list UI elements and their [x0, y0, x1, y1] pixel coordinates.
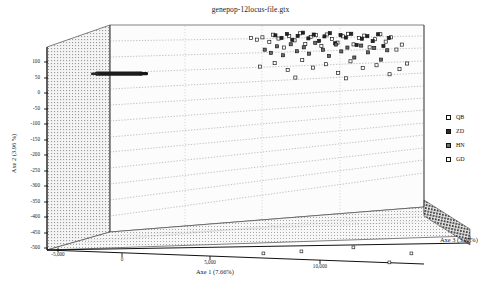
- legend-label: QB: [456, 114, 464, 120]
- scatter-point: [360, 44, 363, 47]
- scatter-point: [357, 37, 360, 40]
- scatter-point-floor: [410, 252, 413, 255]
- scatter-point: [352, 43, 355, 46]
- z-axis-title: Axe 3 (3.07%): [440, 236, 478, 243]
- scatter-point: [384, 40, 387, 43]
- scatter-point: [301, 31, 304, 34]
- scatter-point: [302, 46, 305, 49]
- legend-swatch-icon: [446, 115, 451, 120]
- chart-root: genepop-12locus-file.gtx: [0, 0, 501, 287]
- scatter-point: [296, 34, 299, 37]
- dense-cluster-bar: [91, 72, 148, 76]
- scatter-point: [307, 37, 310, 40]
- back-wall: [110, 25, 424, 232]
- scatter-point: [273, 62, 276, 65]
- scatter-point: [259, 65, 262, 68]
- scatter-point: [375, 64, 378, 67]
- scatter-point: [347, 32, 350, 35]
- scatter-point: [324, 63, 327, 66]
- legend-swatch-icon: [446, 157, 451, 162]
- scatter-point: [344, 77, 347, 80]
- scatter-point: [388, 73, 391, 76]
- scatter-point: [318, 39, 321, 42]
- legend-item-zd[interactable]: ZD: [446, 124, 465, 138]
- scatter-point: [268, 40, 271, 43]
- scatter-point: [340, 50, 343, 53]
- scatter-point: [350, 32, 353, 35]
- scatter-point: [321, 48, 324, 51]
- scatter-point: [323, 35, 326, 38]
- scatter-point: [291, 38, 294, 41]
- scatter-point-floor: [352, 246, 355, 249]
- scatter-point: [275, 45, 278, 48]
- scatter-point-floor: [300, 250, 303, 253]
- scatter-point: [380, 58, 383, 61]
- scatter-point: [282, 46, 285, 49]
- scatter-point: [320, 44, 323, 47]
- scatter-point: [367, 51, 370, 54]
- scatter-point: [280, 36, 283, 39]
- scatter-point: [286, 68, 289, 71]
- scatter-point: [360, 37, 363, 40]
- scatter-point: [395, 48, 398, 51]
- scatter-point: [398, 68, 401, 71]
- legend-swatch-icon: [446, 143, 451, 148]
- scatter-point: [368, 46, 371, 49]
- scatter-point-floor: [388, 261, 391, 264]
- scatter-point: [339, 34, 342, 37]
- scatter-point: [337, 71, 340, 74]
- scatter-point: [314, 41, 317, 44]
- scatter-point: [346, 46, 349, 49]
- legend-swatch-icon: [446, 129, 451, 134]
- scatter-point: [289, 43, 292, 46]
- scatter-point: [373, 46, 376, 49]
- scatter-point: [311, 66, 314, 69]
- scatter-point: [327, 54, 330, 57]
- x-axis-title: Axe 1 (7.66%): [196, 268, 234, 275]
- scatter-point: [282, 54, 285, 57]
- scatter-point: [366, 35, 369, 38]
- legend-item-gd[interactable]: GD: [446, 152, 465, 166]
- scatter-point: [285, 32, 288, 35]
- scatter-point: [382, 44, 385, 47]
- scatter-point: [361, 66, 364, 69]
- scatter-point: [295, 50, 298, 53]
- scatter-point: [349, 60, 352, 63]
- scatter-point: [353, 56, 356, 59]
- scatter-point: [301, 59, 304, 62]
- scatter-point: [400, 43, 403, 46]
- scatter-point: [255, 38, 258, 41]
- scatter-point: [371, 40, 374, 43]
- legend-label: GD: [456, 156, 465, 162]
- scatter-point: [304, 43, 307, 46]
- scatter-point: [328, 32, 331, 35]
- scatter-point: [274, 34, 277, 37]
- scatter-point: [308, 52, 311, 55]
- scatter-point: [312, 33, 315, 36]
- scatter-point: [249, 37, 252, 40]
- scatter-point: [344, 36, 347, 39]
- scatter-plot-3d: [0, 0, 501, 287]
- scatter-point: [261, 36, 264, 39]
- scatter-point: [334, 43, 337, 46]
- scatter-point: [294, 76, 297, 79]
- scatter-point: [269, 51, 272, 54]
- legend-label: ZD: [456, 128, 464, 134]
- scatter-point: [277, 37, 280, 40]
- x-axis-ticks: [58, 248, 320, 264]
- legend-item-hn[interactable]: HN: [446, 138, 465, 152]
- scatter-point: [406, 62, 409, 65]
- legend-label: HN: [456, 142, 465, 148]
- y-axis-title: Axe 2 (3.96 %): [10, 124, 17, 184]
- legend: QB ZD HN GD: [446, 110, 465, 166]
- scatter-point: [363, 34, 366, 37]
- left-wall: [47, 25, 110, 250]
- scatter-point: [355, 43, 358, 46]
- floor-front-edge: [47, 250, 424, 264]
- scatter-point-floor: [262, 252, 265, 255]
- scatter-point: [263, 48, 266, 51]
- scatter-point: [377, 33, 380, 36]
- legend-item-qb[interactable]: QB: [446, 110, 465, 124]
- scatter-point: [387, 36, 390, 39]
- scatter-point: [331, 37, 334, 40]
